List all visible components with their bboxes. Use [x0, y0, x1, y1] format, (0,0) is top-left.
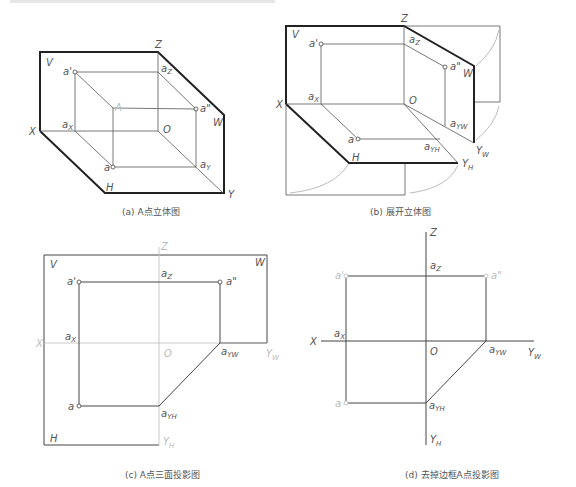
label-a-prime: a': [309, 38, 318, 49]
proj-line: [404, 44, 445, 67]
label-ayw: aYW: [489, 344, 507, 357]
label-a-prime: a': [335, 270, 344, 281]
label-az: aZ: [409, 34, 420, 47]
label-X: X: [275, 99, 284, 110]
proj-line: [158, 72, 196, 109]
point-a: [111, 165, 115, 169]
yh-axis: [404, 104, 458, 163]
label-H: H: [106, 182, 114, 193]
y-axis: [158, 131, 223, 193]
label-YH: YH: [462, 158, 474, 172]
proj-line: [75, 72, 113, 108]
label-Z: Z: [160, 241, 169, 252]
point-a-dprime: [484, 274, 488, 278]
label-ax: aX: [334, 328, 345, 341]
label-ax: aX: [65, 331, 76, 344]
label-a: a: [348, 134, 354, 145]
caption-a: (a) A点立体图: [122, 206, 180, 217]
figure-d-projection-no-frame: Z X O YW YH a' a" a aX aZ aYW aYH (d) 去掉…: [309, 227, 542, 480]
label-O: O: [164, 348, 172, 359]
label-ay: aY: [200, 159, 211, 172]
point-a-prime: [73, 70, 77, 74]
label-a-dprime: a": [491, 270, 502, 281]
point-a-dprime: [443, 65, 447, 69]
rotation-arc: [410, 165, 458, 193]
label-Y: Y: [228, 189, 235, 200]
label-X: X: [309, 336, 318, 347]
h-unfold-frame: [286, 104, 405, 195]
caption-c: (c) A点三面投影图: [125, 469, 200, 480]
h-outline: [286, 104, 458, 163]
label-W: W: [213, 117, 224, 128]
label-ayh: aYH: [429, 400, 445, 413]
label-A: A: [114, 102, 122, 113]
label-a-dprime: a": [450, 61, 461, 72]
label-az: aZ: [430, 260, 441, 273]
point-a-dprime: [218, 280, 222, 284]
label-a-prime: a': [63, 66, 72, 77]
figure-b-unfolded-view: V Z W X H O YW YH a' a" a aX aZ aYW aYH …: [275, 13, 500, 217]
label-ax: aX: [308, 91, 319, 104]
rotation-arc: [476, 30, 499, 66]
label-YW: YW: [266, 348, 280, 362]
caption-d: (d) 去掉边框A点投影图: [405, 469, 499, 480]
projection-diagrams: V Z W X H Y O A a' a" a aX aZ aY (a) A点立…: [0, 0, 576, 487]
point-a-dprime: [194, 107, 198, 111]
proj-line: [113, 108, 196, 109]
label-ayw: aYW: [450, 118, 468, 131]
label-V: V: [46, 57, 54, 68]
label-a: a: [68, 401, 74, 412]
label-Z: Z: [154, 39, 163, 50]
label-Z: Z: [400, 13, 409, 24]
label-X: X: [28, 126, 37, 137]
label-O: O: [163, 124, 171, 135]
point-a: [344, 401, 348, 405]
label-W: W: [463, 68, 474, 79]
label-O: O: [409, 95, 417, 106]
point-a: [77, 404, 81, 408]
label-ayh: aYH: [424, 141, 440, 154]
label-Z: Z: [429, 227, 438, 238]
label-a-dprime: a": [200, 103, 211, 114]
caption-b: (b) 展开立体图: [370, 206, 431, 217]
label-a-dprime: a": [226, 276, 237, 287]
label-X: X: [35, 338, 44, 349]
rotation-arc: [476, 106, 499, 140]
label-W: W: [255, 257, 266, 268]
label-ax: aX: [62, 119, 73, 132]
label-YW: YW: [476, 145, 490, 159]
label-H: H: [50, 433, 58, 444]
label-YW: YW: [528, 347, 542, 361]
label-H: H: [352, 152, 360, 163]
v-w-frame-top: [44, 255, 267, 343]
label-az: aZ: [161, 268, 172, 281]
figure-a-3d-view: V Z W X H Y O A a' a" a aX aZ aY (a) A点立…: [28, 39, 235, 217]
figure-c-three-view-projection: V Z W X H O YW YH a' a" a aX aZ aYW aYH …: [35, 241, 280, 480]
point-a-prime: [77, 280, 81, 284]
rotation-arc: [290, 163, 349, 193]
label-a: a: [335, 398, 341, 409]
v-h-frame: [44, 255, 159, 445]
point-a-prime: [344, 274, 348, 278]
label-ayh: aYH: [161, 408, 177, 421]
label-V: V: [50, 259, 58, 270]
label-a-prime: a': [67, 276, 76, 287]
label-ayw: aYW: [221, 346, 239, 359]
point-a-prime: [319, 42, 323, 46]
label-YH: YH: [163, 436, 175, 450]
label-O: O: [430, 346, 438, 357]
label-V: V: [292, 29, 300, 40]
point-a: [356, 137, 360, 141]
label-a: a: [104, 162, 110, 173]
label-YH: YH: [430, 434, 442, 448]
